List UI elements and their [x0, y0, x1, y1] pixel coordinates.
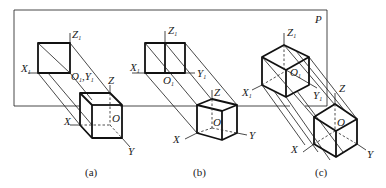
projection-diagram: P Z1 X1 O1,Y1 Z X O Y (a) [0, 0, 386, 188]
caption-a: (a) [85, 166, 98, 179]
label-x-c: X [290, 143, 299, 155]
label-x-a: X [63, 115, 72, 127]
panel-b: Z1 X1 O1 Y1 Z X O Y (b) [129, 24, 257, 179]
label-y1-b: Y1 [197, 67, 206, 80]
panel-c: Z1 X1 O1 Y1 Z X O Y (c) [241, 26, 375, 179]
label-z-a: Z [108, 74, 115, 86]
label-y-a: Y [128, 145, 136, 157]
panel-a: Z1 X1 O1,Y1 Z X O Y (a) [20, 28, 136, 179]
label-x1-a: X1 [20, 62, 31, 75]
label-z-c: Z [339, 82, 346, 94]
label-y1-c: Y1 [313, 89, 322, 102]
label-o-c: O [337, 116, 345, 128]
caption-b: (b) [193, 166, 206, 179]
caption-c: (c) [315, 166, 328, 179]
label-x-b: X [172, 133, 181, 145]
label-o1y1-a: O1,Y1 [71, 70, 94, 83]
label-x1-c: X1 [241, 86, 252, 99]
label-o1-c: O1 [290, 66, 301, 79]
label-z1-c: Z1 [287, 26, 296, 39]
label-z1-b: Z1 [168, 24, 177, 37]
label-o-b: O [213, 116, 221, 128]
label-y-b: Y [249, 129, 257, 141]
label-z-b: Z [214, 86, 221, 98]
label-z1-a: Z1 [72, 28, 81, 41]
label-x1-b: X1 [129, 61, 140, 74]
plane-label: P [314, 13, 322, 25]
label-y-c: Y [367, 148, 375, 160]
label-o-a: O [112, 112, 120, 124]
